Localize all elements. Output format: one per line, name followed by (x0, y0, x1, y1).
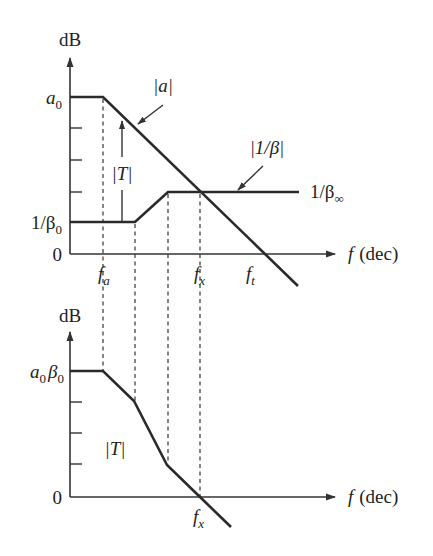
bottom-x-axis-label: f(dec) (348, 486, 398, 508)
inv-beta-label-pointer (238, 166, 263, 190)
top-x-axis-label: f(dec) (348, 243, 398, 265)
inverse-feedback-curve (70, 192, 299, 222)
fa-label: fa (98, 263, 110, 288)
bode-diagram: dB a0 1/β0 0 fa fx ft f(dec) |a| |1/β| |… (0, 0, 433, 556)
a-magnitude-label: |a| (153, 75, 173, 96)
top-plot: dB a0 1/β0 0 fa fx ft f(dec) |a| |1/β| |… (31, 29, 398, 497)
loop-gain-curve (70, 371, 231, 527)
a0-beta0-label: a0β0 (30, 361, 64, 386)
fx-label: fx (194, 263, 205, 288)
inv-beta-magnitude-label: |1/β| (250, 137, 285, 158)
bottom-zero-label: 0 (53, 487, 63, 508)
top-T-magnitude-label: |T| (111, 163, 132, 184)
ft-label: ft (246, 263, 255, 288)
top-y-axis-label: dB (59, 29, 81, 50)
top-zero-label: 0 (53, 244, 63, 265)
a-label-pointer (138, 105, 163, 124)
bottom-y-axis-label: dB (59, 305, 81, 326)
inv-beta-inf-label: 1/β∞ (310, 181, 344, 206)
a0-label: a0 (46, 87, 62, 112)
bottom-fx-label: fx (193, 506, 204, 531)
inv-beta0-label: 1/β0 (31, 212, 62, 237)
bottom-plot: dB a0β0 0 |T| fx f(dec) (30, 305, 398, 531)
bottom-T-magnitude-label: |T| (104, 438, 125, 459)
